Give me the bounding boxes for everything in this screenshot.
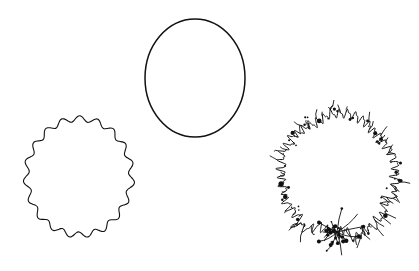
blob: [366, 119, 369, 122]
burst-blob: [341, 207, 344, 210]
spike: [280, 147, 286, 150]
burst-blob: [331, 243, 333, 245]
burst-blob: [331, 221, 333, 223]
spike: [300, 232, 302, 242]
blob: [296, 225, 297, 226]
burst-blob: [317, 239, 321, 243]
figure-canvas: Three circular contours of increasing bo…: [0, 0, 419, 271]
blob: [283, 153, 285, 155]
burst-blob: [341, 235, 345, 239]
blob: [368, 230, 370, 232]
spike: [377, 228, 383, 235]
spike-group: [270, 100, 410, 247]
blob: [394, 178, 396, 180]
burst-blob: [336, 241, 340, 245]
blob: [313, 234, 314, 235]
spike: [316, 110, 317, 119]
burst-blob: [338, 234, 341, 237]
spike: [346, 107, 347, 110]
burst-blob: [333, 224, 337, 228]
blob: [283, 195, 287, 199]
blob: [278, 181, 283, 186]
blob: [395, 171, 398, 174]
blob: [281, 199, 284, 202]
blob: [288, 139, 290, 141]
blob: [386, 187, 388, 189]
blob: [399, 161, 402, 164]
spike: [369, 112, 370, 122]
spike: [383, 217, 391, 224]
blob: [352, 240, 354, 242]
contours-svg: [0, 0, 419, 271]
blob: [304, 116, 306, 118]
smooth-contour: [145, 19, 245, 137]
blob: [287, 186, 290, 189]
shape-wavy-circle: [23, 116, 134, 237]
blob: [390, 162, 392, 164]
blob: [291, 131, 295, 135]
spike: [274, 150, 278, 151]
blob: [296, 136, 297, 137]
blob: [368, 126, 370, 128]
blob: [317, 119, 322, 124]
blob: [327, 118, 329, 120]
shape-smooth-circle: [145, 19, 245, 137]
blob: [294, 226, 296, 228]
spike: [381, 127, 387, 136]
blob: [333, 108, 336, 111]
blob: [399, 179, 403, 183]
spike: [270, 156, 277, 160]
shape-fractal-circle: [270, 100, 410, 255]
blob: [293, 143, 294, 144]
blob: [336, 110, 338, 112]
spike: [294, 122, 302, 126]
blob: [367, 232, 370, 235]
burst-blob: [334, 237, 337, 240]
blob: [296, 218, 300, 222]
burst-blob: [328, 230, 332, 234]
blob-group: [278, 108, 402, 242]
blob: [380, 197, 382, 199]
burst-blob: [330, 241, 332, 243]
blob: [383, 214, 388, 219]
blob: [375, 142, 376, 143]
blob: [378, 143, 380, 145]
blob: [295, 144, 297, 146]
spike: [282, 192, 285, 193]
blob: [379, 138, 381, 140]
blob: [303, 123, 306, 126]
blob: [303, 224, 305, 226]
blob: [396, 190, 397, 191]
bottom-burst: [317, 207, 365, 255]
burst-blob: [341, 239, 345, 243]
burst-blob: [326, 250, 328, 252]
blob: [294, 135, 295, 136]
blob: [307, 116, 309, 118]
burst-blob: [362, 225, 366, 229]
blob: [349, 118, 352, 121]
spike: [299, 125, 300, 133]
fractal-contour: [276, 109, 400, 242]
blob: [284, 165, 286, 167]
spike: [357, 238, 360, 248]
blob: [360, 228, 362, 230]
blob: [326, 234, 328, 236]
burst-blob: [317, 221, 321, 225]
blob: [298, 209, 300, 211]
burst-blob: [357, 234, 362, 239]
wavy-contour: [23, 116, 134, 237]
burst-blob: [337, 227, 339, 229]
blob: [351, 117, 354, 120]
spike: [386, 138, 388, 143]
blob: [291, 206, 293, 208]
blob: [298, 206, 300, 208]
blob: [373, 131, 377, 135]
